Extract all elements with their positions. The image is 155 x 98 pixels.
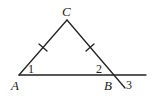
angle-label-1: 1 bbox=[28, 62, 34, 76]
vertex-label-a: A bbox=[10, 78, 19, 93]
vertex-label-b: B bbox=[104, 78, 112, 93]
vertex-label-c: C bbox=[62, 4, 71, 19]
triangle-diagram: C A B 1 2 3 bbox=[0, 0, 155, 98]
angle-label-2: 2 bbox=[96, 62, 102, 76]
side-cb-extended bbox=[67, 20, 125, 88]
angle-label-3: 3 bbox=[126, 78, 132, 92]
